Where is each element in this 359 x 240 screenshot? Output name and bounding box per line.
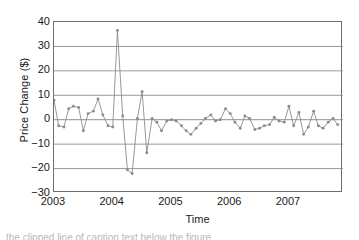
data-point bbox=[322, 127, 325, 130]
data-point bbox=[165, 119, 168, 122]
y-tick--20: −20 bbox=[18, 162, 50, 173]
data-point bbox=[258, 127, 261, 130]
data-point bbox=[87, 112, 90, 115]
data-point bbox=[97, 98, 100, 101]
data-point bbox=[92, 110, 95, 113]
data-point bbox=[224, 107, 227, 110]
data-point bbox=[307, 126, 310, 129]
x-tick-2005: 2005 bbox=[147, 195, 193, 208]
y-tick-10: 10 bbox=[18, 89, 50, 100]
gridlines bbox=[54, 46, 343, 168]
data-point bbox=[101, 113, 104, 116]
data-point bbox=[189, 133, 192, 136]
data-point bbox=[63, 126, 66, 129]
series-canvas bbox=[54, 22, 343, 193]
y-tick-40: 40 bbox=[18, 16, 50, 27]
data-point bbox=[292, 124, 295, 127]
data-point bbox=[111, 126, 114, 129]
data-point bbox=[327, 121, 330, 124]
data-point bbox=[273, 116, 276, 119]
data-point bbox=[151, 117, 154, 120]
price-change-line bbox=[54, 31, 338, 174]
data-point bbox=[145, 151, 148, 154]
data-point bbox=[312, 110, 315, 113]
data-point bbox=[253, 128, 256, 131]
data-point bbox=[243, 115, 246, 118]
data-point bbox=[248, 117, 251, 120]
data-point bbox=[131, 172, 134, 175]
data-point bbox=[233, 121, 236, 124]
data-point bbox=[336, 123, 339, 126]
data-point bbox=[54, 99, 55, 102]
data-point bbox=[116, 29, 119, 32]
clipped-caption-text: the clipped line of caption text below t… bbox=[0, 232, 359, 240]
x-tick-2007: 2007 bbox=[265, 195, 311, 208]
y-tick-30: 30 bbox=[18, 40, 50, 51]
y-tick-20: 20 bbox=[18, 64, 50, 75]
data-point bbox=[199, 122, 202, 125]
data-point bbox=[185, 129, 188, 132]
data-point bbox=[239, 127, 242, 130]
data-point bbox=[268, 123, 271, 126]
data-point bbox=[317, 124, 320, 127]
y-tick-0: 0 bbox=[18, 113, 50, 124]
data-point bbox=[72, 105, 75, 108]
x-axis-title: Time bbox=[53, 213, 342, 226]
data-point bbox=[283, 121, 286, 124]
data-point bbox=[126, 168, 129, 171]
x-tick-2004: 2004 bbox=[89, 195, 135, 208]
data-point bbox=[175, 119, 178, 122]
data-point bbox=[141, 90, 144, 93]
x-axis-tick-labels: 20032004200520062007 bbox=[0, 195, 359, 211]
x-tick-2003: 2003 bbox=[30, 195, 76, 208]
data-point bbox=[180, 124, 183, 127]
data-point bbox=[288, 105, 291, 108]
data-point bbox=[219, 118, 222, 121]
data-point bbox=[160, 129, 163, 132]
data-point bbox=[209, 113, 212, 116]
x-tick-2006: 2006 bbox=[206, 195, 252, 208]
data-point bbox=[82, 129, 85, 132]
data-point bbox=[170, 118, 173, 121]
data-point bbox=[155, 121, 158, 124]
data-point bbox=[107, 124, 110, 127]
data-point bbox=[67, 107, 70, 110]
data-point bbox=[195, 127, 198, 130]
chart-figure: Price Change ($) 403020100−10−20−30 2003… bbox=[0, 0, 359, 240]
data-point bbox=[77, 106, 80, 109]
data-point bbox=[57, 124, 60, 127]
data-point bbox=[229, 112, 232, 115]
data-point bbox=[278, 119, 281, 122]
data-point bbox=[263, 124, 266, 127]
data-point bbox=[204, 117, 207, 120]
data-point bbox=[302, 133, 305, 136]
data-point bbox=[332, 117, 335, 120]
data-point bbox=[121, 115, 124, 118]
y-tick--10: −10 bbox=[18, 138, 50, 149]
plot-area bbox=[53, 21, 342, 192]
data-point bbox=[214, 119, 217, 122]
data-point bbox=[298, 111, 301, 114]
data-point bbox=[136, 117, 139, 120]
